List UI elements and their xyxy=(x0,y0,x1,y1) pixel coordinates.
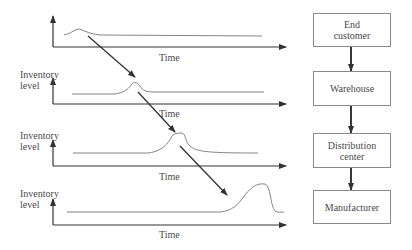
panel-4-curve xyxy=(67,184,284,212)
box-manufacturer: Manufacturer xyxy=(313,190,391,224)
box-label: Distribution center xyxy=(322,140,382,162)
panel-1-curve xyxy=(64,29,262,36)
box-end-customer: End customer xyxy=(313,13,391,47)
box-distribution-center: Distribution center xyxy=(313,133,391,168)
panel-3-axes xyxy=(53,133,286,166)
box-label: Warehouse xyxy=(330,83,374,94)
panel-2-x-label: Time xyxy=(159,108,180,119)
propagation-arrow-3 xyxy=(180,146,227,195)
box-label: End customer xyxy=(327,19,377,41)
panel-3-y-label: Inventory level xyxy=(20,130,65,152)
panel-3-x-label: Time xyxy=(159,171,180,182)
panel-1-x-label: Time xyxy=(159,52,180,63)
box-label: Manufacturer xyxy=(325,202,379,213)
box-warehouse: Warehouse xyxy=(313,71,391,106)
panel-3-curve xyxy=(73,133,258,153)
panel-1-axes xyxy=(53,16,286,47)
propagation-arrow-1 xyxy=(88,36,135,77)
panel-4-axes xyxy=(53,184,286,225)
panel-2-curve xyxy=(72,82,264,94)
panel-2-axes xyxy=(53,78,286,104)
panel-2-y-label: Inventory level xyxy=(20,69,65,91)
panel-4-x-label: Time xyxy=(159,229,180,240)
panel-4-y-label: Inventory level xyxy=(20,188,65,210)
